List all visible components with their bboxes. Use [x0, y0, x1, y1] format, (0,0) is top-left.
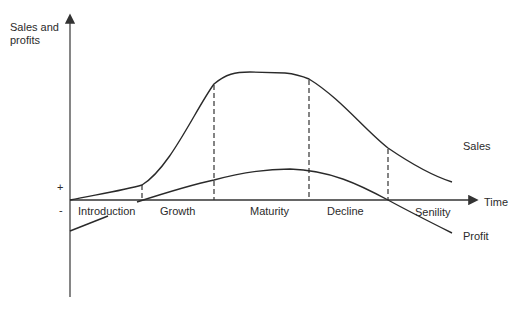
minus-marker: - [59, 204, 63, 217]
x-axis-label: Time [484, 196, 508, 209]
profit-curve [137, 169, 452, 233]
profit-curve-label: Profit [463, 230, 489, 243]
stage-growth-label: Growth [160, 205, 195, 218]
stage-maturity-label: Maturity [250, 205, 289, 218]
sales-curve-label: Sales [463, 140, 491, 153]
profit-curve-intro [70, 216, 108, 231]
stage-introduction-label: Introduction [78, 205, 135, 218]
y-axis-label: Sales and profits [10, 21, 80, 47]
stage-decline-label: Decline [327, 205, 364, 218]
stage-senility-label: Senility [415, 206, 450, 219]
plus-marker: + [57, 181, 63, 194]
sales-curve [70, 72, 452, 200]
